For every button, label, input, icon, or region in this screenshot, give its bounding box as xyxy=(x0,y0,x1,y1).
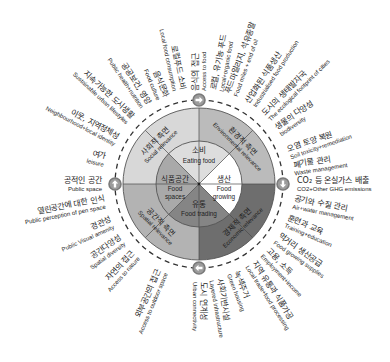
core-spaces-en-1: Food xyxy=(168,185,183,192)
core-trading-en: Food trading xyxy=(181,210,217,218)
flow-marker-right xyxy=(277,178,289,190)
core-eating-en: Eating food xyxy=(183,157,216,165)
indicator-en: Access to food xyxy=(201,52,207,91)
flow-marker-bottom xyxy=(193,262,205,274)
core-eating-ko: 소비 xyxy=(192,146,206,155)
indicator-soil-toxicity: 오염 토양 복원 Soil toxicity+remediation xyxy=(286,124,353,160)
indicator-en: Urban connectivity xyxy=(192,282,198,331)
food-system-diagram: 소비 Eating food 생산 Food growing 유통 Food t… xyxy=(0,0,390,362)
indicator-ko: 음식의 접근 xyxy=(190,53,200,91)
indicator-en: CO2+Other GHG emissions xyxy=(297,186,372,192)
flow-marker-left xyxy=(109,178,121,190)
indicator-public-space: 공적인 공간 Public space xyxy=(64,175,103,192)
core-growing-en-2: growing xyxy=(213,193,236,201)
indicator-ko: CO₂ 등 온실가스 배출 xyxy=(297,175,369,185)
indicator-leisure: 여가 leisure xyxy=(86,147,108,168)
center-dot xyxy=(198,183,201,186)
flow-marker-top xyxy=(193,94,205,106)
core-spaces-ko: 식품공간 xyxy=(161,174,189,184)
core-growing-ko: 생산 xyxy=(217,174,231,184)
indicator-ko: 도시 연계성 xyxy=(199,282,209,320)
indicator-ghg-emissions: CO₂ 등 온실가스 배출 CO2+Other GHG emissions xyxy=(297,175,372,192)
core-trading-ko: 유통 xyxy=(192,200,206,209)
core-growing-en-1: Food xyxy=(217,185,232,192)
indicator-ko: 공적인 공간 xyxy=(64,175,103,185)
core-spaces-en-2: spaces xyxy=(165,193,185,201)
indicator-en: Public space xyxy=(68,186,103,192)
indicator-urban-connectivity: 도시 연계성 Urban connectivity xyxy=(192,282,209,331)
indicator-access-to-food: 음식의 접근 Access to food xyxy=(190,52,207,91)
indicator-access-to-outdoor-space: 외부공간의 접근 Access to outdoor space xyxy=(127,267,169,335)
